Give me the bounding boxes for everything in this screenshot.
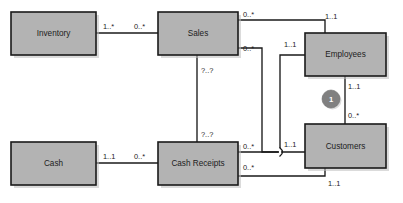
uml-class-diagram: InventorySalesEmployeesCashCash Receipts… — [0, 0, 403, 203]
entity-employees[interactable]: Employees — [305, 33, 389, 79]
entity-cash_receipts[interactable]: Cash Receipts — [158, 142, 241, 188]
association-line-sales-customers — [238, 48, 305, 152]
entity-sales[interactable]: Sales — [158, 12, 241, 58]
entity-inventory[interactable]: Inventory — [11, 12, 99, 58]
multiplicity-label-m-cash-receipts-right-1: 0..* — [243, 142, 254, 151]
multiplicity-label-m-cash-receipts-top: ?..? — [201, 130, 213, 139]
entity-label: Employees — [325, 50, 366, 59]
multiplicity-label-m-sales-topright: 0..* — [243, 10, 254, 19]
constraint-marker-xor-constraint-1[interactable]: 1 — [322, 90, 342, 110]
multiplicity-label-m-sales-midright: 0..* — [243, 44, 254, 53]
multiplicity-label-m-customers-bottom: 1..1 — [328, 179, 340, 188]
multiplicity-label-m-sales-left: 0..* — [134, 22, 145, 31]
constraints-layer: 1 — [322, 90, 342, 110]
entity-label: Cash Receipts — [171, 159, 224, 168]
entity-cash[interactable]: Cash — [11, 142, 99, 188]
entity-label: Inventory — [37, 29, 72, 38]
multiplicity-label-m-employees-left: 1..1 — [284, 40, 296, 49]
multiplicity-label-m-customers-top: 0..* — [348, 111, 359, 120]
multiplicity-label-m-employees-topleft: 1..1 — [325, 12, 337, 21]
entity-label: Customers — [326, 142, 366, 151]
multiplicity-label-m-cash-right: 1..1 — [103, 152, 115, 161]
multiplicity-label-m-inventory-right: 1..* — [103, 22, 114, 31]
association-line-cash-receipts-employees — [238, 55, 305, 152]
multiplicity-label-m-customers-left: 1..1 — [284, 140, 296, 149]
entity-label: Sales — [188, 29, 208, 38]
multiplicity-label-m-cash-receipts-right-2: 0..* — [243, 163, 254, 172]
multiplicity-label-m-employees-bottom: 1..1 — [348, 82, 360, 91]
multiplicity-label-m-cash-receipts-left: 0..* — [134, 152, 145, 161]
diagram-canvas: InventorySalesEmployeesCashCash Receipts… — [0, 0, 403, 203]
entity-customers[interactable]: Customers — [305, 124, 389, 171]
multiplicity-label-m-sales-bottom: ?..? — [201, 66, 213, 75]
entity-label: Cash — [44, 159, 64, 168]
association-line-sales-employees — [238, 20, 325, 33]
